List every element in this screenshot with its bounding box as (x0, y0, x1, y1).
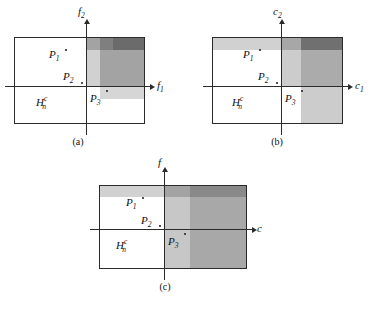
panel-c-point-dot-p1 (142, 197, 144, 199)
panel-b-point-label-p1: P1 (243, 48, 253, 63)
panel-b-x-axis-label: c1 (355, 79, 364, 94)
panel-a-point-dot-p3 (106, 90, 108, 92)
panel-b-x-axis-arrow-icon (348, 84, 353, 90)
panel-c-y-axis (164, 172, 165, 280)
panel-b-point-dot-p1 (259, 49, 261, 51)
panel-b-p1-sub: 1 (250, 54, 254, 63)
panel-a-p1-sub: 1 (56, 54, 60, 63)
panel-a-x-axis (5, 86, 152, 87)
panel-c-point-label-p1: P1 (126, 196, 136, 211)
panel-a-p2-sub: 2 (70, 76, 74, 85)
panel-b-point-label-p2: P2 (258, 70, 268, 85)
panel-b-p2-base: P (258, 70, 265, 82)
panel-c-y-axis-label-base: f (158, 156, 161, 168)
panel-c-x-axis (90, 229, 254, 230)
panel-b-point-label-p3: P3 (285, 92, 295, 107)
panel-c-p2-base: P (141, 214, 148, 226)
panel-c-caption: (c) (153, 281, 177, 292)
panel-c-plot-box (99, 185, 247, 269)
panel-c-x-axis-label-base: c (257, 222, 262, 234)
panel-c-y-axis-label: f (158, 156, 161, 171)
panel-c-y-axis-arrow-icon (162, 167, 168, 172)
panel-a-p3-sub: 3 (97, 98, 101, 107)
panel-a-point-label-p1: P1 (49, 48, 59, 63)
panel-a-y-axis-label: f2 (78, 5, 85, 20)
panel-a-plot-box (14, 37, 145, 124)
panel-b-x-axis-label-sub: 1 (360, 85, 364, 94)
panel-a-point-label-p2: P2 (63, 70, 73, 85)
panel-a-caption: (a) (66, 136, 90, 147)
panel-b-p3-base: P (285, 92, 292, 104)
panel-a-x-axis-arrow-icon (150, 84, 155, 90)
panel-a-point-label-p3: P3 (90, 92, 100, 107)
panel-c-p1-base: P (126, 196, 133, 208)
panel-c: c f P1 P2 P3 Hcn (c) (90, 160, 290, 316)
panel-b-x-axis (203, 86, 350, 87)
panel-c-p1-sub: 1 (133, 202, 137, 211)
panel-a-p3-base: P (90, 92, 97, 104)
panel-b-y-axis (281, 24, 282, 135)
panel-a: f1 f2 P1 P2 P3 Hcn (a) (0, 0, 190, 160)
panel-b-region-label: Hcn (232, 94, 242, 111)
panel-a-y-axis (86, 24, 87, 135)
panel-b-y-axis-label: c2 (273, 5, 282, 20)
panel-c-point-dot-p2 (159, 225, 161, 227)
panel-c-point-label-p2: P2 (141, 214, 151, 229)
panel-b-region-sub: n (238, 102, 242, 111)
panel-b-caption: (b) (265, 136, 289, 147)
panel-a-region-sub: n (42, 102, 46, 111)
panel-a-x-axis-label: f1 (157, 79, 164, 94)
panel-c-p3-sub: 3 (175, 241, 179, 250)
panel-c-point-label-p3: P3 (168, 235, 178, 250)
panel-a-p2-base: P (63, 70, 70, 82)
panel-b: c1 c2 P1 P2 P3 Hcn (b) (190, 0, 377, 160)
panel-c-x-axis-label: c (257, 222, 262, 237)
panel-a-y-axis-label-sub: 2 (81, 11, 85, 20)
panel-a-point-dot-p1 (65, 49, 67, 51)
panel-b-point-dot-p3 (301, 90, 303, 92)
panel-b-point-dot-p2 (276, 82, 278, 84)
panel-b-p3-sub: 3 (292, 98, 296, 107)
panel-b-p2-sub: 2 (265, 76, 269, 85)
panel-c-p2-sub: 2 (148, 220, 152, 229)
panel-c-point-dot-p3 (184, 233, 186, 235)
panel-a-p1-base: P (49, 48, 56, 60)
panel-c-p3-base: P (168, 235, 175, 247)
panel-a-region-label: Hcn (36, 94, 46, 111)
panel-a-x-axis-label-sub: 1 (160, 85, 164, 94)
panel-c-region-sub: n (122, 245, 126, 254)
panel-c-region-label: Hcn (116, 237, 126, 254)
panel-b-p1-base: P (243, 48, 250, 60)
panel-b-y-axis-label-sub: 2 (278, 11, 282, 20)
panel-a-point-dot-p2 (81, 82, 83, 84)
panel-b-plot-box (212, 37, 343, 124)
